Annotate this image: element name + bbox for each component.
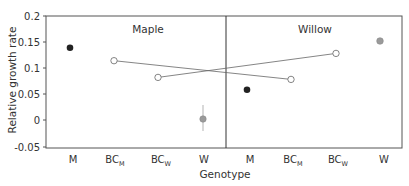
x-tick-label: W <box>379 154 389 165</box>
y-axis-title: Relative growth rate <box>6 27 18 134</box>
point-willow-bcw <box>333 50 339 56</box>
x-tick-label: BCW <box>328 154 349 168</box>
x-tick-label: M <box>246 154 255 165</box>
bcw-reaction-line <box>158 53 336 77</box>
point-maple-w <box>200 116 206 122</box>
point-maple-bcm <box>111 58 117 64</box>
y-tick-label: 0.2 <box>24 11 40 22</box>
x-tick-label: BCW <box>151 154 172 168</box>
x-tick-label: BCM <box>105 154 124 168</box>
x-tick-label: M <box>69 154 78 165</box>
y-tick-label: 0 <box>34 115 40 126</box>
point-willow-w <box>377 38 384 45</box>
relative-growth-chart: 0.2 0.15 0.1 0.05 0 -0.05 Relative growt… <box>0 0 409 186</box>
y-tick-label: 0.05 <box>18 89 40 100</box>
point-willow-m <box>244 87 251 94</box>
x-tick-label: W <box>199 154 209 165</box>
x-axis: M BCM BCW W M BCM BCW W <box>69 154 389 168</box>
panel-title-willow: Willow <box>298 23 332 35</box>
y-tick-label: 0.1 <box>24 63 40 74</box>
y-tick-label: -0.05 <box>14 142 40 153</box>
point-willow-bcm <box>288 76 294 82</box>
point-maple-m <box>67 44 74 51</box>
y-axis: 0.2 0.15 0.1 0.05 0 -0.05 <box>14 11 46 153</box>
point-maple-bcw <box>155 74 161 80</box>
plot-area <box>46 16 402 148</box>
panel-title-maple: Maple <box>132 23 164 35</box>
y-tick-label: 0.15 <box>18 37 40 48</box>
x-tick-label: BCM <box>283 154 302 168</box>
bcm-reaction-line <box>114 61 291 80</box>
x-axis-title: Genotype <box>199 168 250 180</box>
